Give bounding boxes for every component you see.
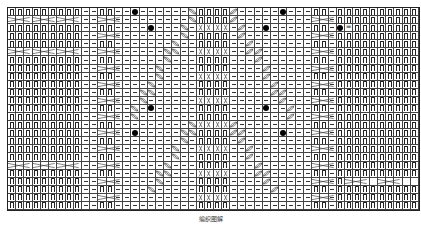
purl-stitch-icon [90,24,98,32]
knit-stitch-icon [378,8,386,16]
purl-stitch-icon [148,8,156,16]
cable-cross-icon [246,153,254,161]
knit-stitch-icon [370,170,378,178]
purl-stitch-icon [164,89,172,97]
knit-stitch-icon [24,81,32,89]
chart-cell [24,16,32,24]
knit-stitch-icon [8,170,16,178]
purl-stitch-icon [304,162,312,170]
knit-stitch-icon [370,97,378,105]
knit-stitch-icon [378,65,386,73]
purl-stitch-icon [181,97,189,105]
purl-stitch-icon [115,121,123,129]
knit-stitch-icon [214,178,222,186]
purl-stitch-icon [263,194,271,202]
knit-stitch-icon [222,186,230,194]
bobble-icon [148,105,156,113]
knit-stitch-icon [411,8,419,16]
knit-stitch-icon [214,56,222,64]
purl-stitch-icon [230,65,238,73]
knit-stitch-icon [33,186,41,194]
knit-stitch-icon [320,186,328,194]
cable-cross-icon [189,8,197,16]
purl-stitch-icon [140,162,148,170]
knit-stitch-icon [107,170,115,178]
cable-cross-icon [156,73,164,81]
purl-stitch-icon [115,105,123,113]
purl-stitch-icon [189,73,197,81]
purl-stitch-icon [148,137,156,145]
knit-stitch-icon [386,56,394,64]
purl-stitch-icon [271,145,279,153]
chart-cell [353,178,361,186]
knit-stitch-icon [24,8,32,16]
purl-stitch-icon [304,202,312,210]
knit-stitch-icon [33,105,41,113]
purl-stitch-icon [164,194,172,202]
knit-stitch-icon [403,97,411,105]
knit-stitch-icon [57,40,65,48]
purl-stitch-icon [287,186,295,194]
cable-cross-icon [164,56,172,64]
purl-stitch-icon [263,186,271,194]
purl-stitch-icon [123,32,131,40]
knit-stitch-icon [370,162,378,170]
purl-stitch-icon [263,81,271,89]
purl-stitch-icon [304,32,312,40]
knit-stitch-icon [49,153,57,161]
knit-stitch-icon [312,137,320,145]
purl-stitch-icon [181,202,189,210]
knit-stitch-icon [403,202,411,210]
knit-stitch-icon [370,194,378,202]
purl-stitch-icon [164,16,172,24]
knit-stitch-icon [403,186,411,194]
knit-stitch-icon [107,153,115,161]
purl-stitch-icon [148,16,156,24]
chart-cell [41,16,49,24]
knit-stitch-icon [41,170,49,178]
purl-stitch-icon [90,97,98,105]
purl-stitch-icon [271,32,279,40]
knit-stitch-icon [378,24,386,32]
cable-cross-icon [57,162,65,170]
purl-stitch-icon [164,145,172,153]
purl-stitch-icon [148,73,156,81]
knit-stitch-icon [337,121,345,129]
knit-stitch-icon [312,8,320,16]
purl-stitch-icon [263,113,271,121]
knit-stitch-icon [49,65,57,73]
knit-stitch-icon [386,194,394,202]
purl-stitch-icon [115,186,123,194]
purl-stitch-icon [255,105,263,113]
knit-stitch-icon [66,89,74,97]
knit-stitch-icon [57,178,65,186]
purl-stitch-icon [123,65,131,73]
purl-stitch-icon [164,24,172,32]
knit-stitch-icon [345,97,353,105]
purl-stitch-icon [230,186,238,194]
knit-stitch-icon [33,89,41,97]
purl-stitch-icon [181,162,189,170]
cable-cross-icon [279,97,287,105]
cable-cross-icon [8,16,16,24]
knit-stitch-icon [403,32,411,40]
knit-stitch-icon [33,121,41,129]
purl-stitch-icon [304,89,312,97]
cable-cross-icon [246,40,254,48]
knit-stitch-icon [197,129,205,137]
knit-stitch-icon [222,16,230,24]
purl-stitch-icon [287,65,295,73]
knit-stitch-icon [394,162,402,170]
knit-stitch-icon [66,105,74,113]
knit-stitch-icon [370,8,378,16]
knit-stitch-icon [361,129,369,137]
knit-stitch-icon [98,186,106,194]
purl-stitch-icon [140,178,148,186]
purl-stitch-icon [172,65,180,73]
knit-stitch-icon [16,40,24,48]
knit-stitch-icon [403,145,411,153]
knit-stitch-icon [197,137,205,145]
purl-stitch-icon [148,153,156,161]
cable-cross-icon [222,170,230,178]
knit-stitch-icon [98,137,106,145]
